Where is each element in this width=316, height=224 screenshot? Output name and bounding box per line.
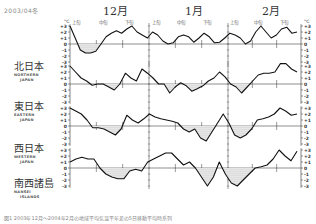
- figure-caption: 図1 2003年12月～2004年2月の地域平均気温平年差の5日移動平均時系列: [4, 214, 172, 221]
- svg-text:0: 0: [64, 166, 67, 171]
- temperature-anomaly-chart: -3-3-2-2-1-100+1+1+2+2+3+3°C°C-3-3-2-2-1…: [0, 0, 316, 224]
- svg-text:+1: +1: [60, 36, 67, 41]
- svg-text:0: 0: [304, 124, 307, 129]
- panel-3: -3-3-2-2-1-100+1+1+2+2+3+3: [60, 105, 311, 147]
- svg-text:-2: -2: [304, 54, 309, 59]
- svg-text:+3: +3: [304, 24, 311, 29]
- svg-text:-2: -2: [62, 94, 67, 99]
- svg-text:°C: °C: [64, 19, 69, 24]
- svg-text:0: 0: [64, 82, 67, 87]
- svg-text:+3: +3: [304, 148, 311, 153]
- svg-text:-2: -2: [304, 178, 309, 183]
- svg-text:+3: +3: [60, 148, 67, 153]
- svg-text:+1: +1: [304, 118, 311, 123]
- svg-text:0: 0: [64, 42, 67, 47]
- svg-text:+2: +2: [60, 70, 67, 75]
- svg-text:+3: +3: [304, 106, 311, 111]
- svg-text:+2: +2: [304, 112, 311, 117]
- svg-text:-1: -1: [62, 88, 67, 93]
- series-line: [70, 64, 297, 93]
- svg-text:-1: -1: [304, 130, 309, 135]
- series-line: [70, 108, 297, 141]
- svg-text:-1: -1: [62, 48, 67, 53]
- panel-1: -3-3-2-2-1-100+1+1+2+2+3+3°C°C: [60, 19, 311, 65]
- svg-text:-3: -3: [62, 184, 67, 189]
- svg-text:+1: +1: [60, 160, 67, 165]
- svg-text:-3: -3: [304, 142, 309, 147]
- svg-text:0: 0: [64, 124, 67, 129]
- series-line: [70, 26, 297, 53]
- svg-text:-1: -1: [304, 48, 309, 53]
- svg-text:+2: +2: [60, 30, 67, 35]
- svg-text:-2: -2: [62, 136, 67, 141]
- svg-text:°C: °C: [304, 19, 309, 24]
- svg-text:0: 0: [304, 166, 307, 171]
- svg-text:-1: -1: [62, 172, 67, 177]
- svg-text:-2: -2: [62, 178, 67, 183]
- svg-text:+3: +3: [60, 106, 67, 111]
- svg-text:-1: -1: [304, 88, 309, 93]
- svg-text:0: 0: [304, 42, 307, 47]
- svg-text:-2: -2: [304, 136, 309, 141]
- svg-text:-3: -3: [62, 142, 67, 147]
- svg-text:0: 0: [304, 82, 307, 87]
- svg-text:+1: +1: [304, 160, 311, 165]
- svg-text:+2: +2: [60, 112, 67, 117]
- panel-2: -3-3-2-2-1-100+1+1+2+2+3+3: [60, 63, 311, 105]
- panel-4: -3-3-2-2-1-100+1+1+2+2+3+3: [60, 147, 311, 189]
- svg-text:-1: -1: [62, 130, 67, 135]
- svg-text:+3: +3: [60, 64, 67, 69]
- svg-text:-2: -2: [62, 54, 67, 59]
- svg-text:-3: -3: [62, 100, 67, 105]
- svg-text:-3: -3: [304, 100, 309, 105]
- svg-text:+2: +2: [304, 30, 311, 35]
- svg-text:+2: +2: [304, 154, 311, 159]
- svg-text:+1: +1: [60, 118, 67, 123]
- svg-text:+2: +2: [304, 70, 311, 75]
- svg-text:+2: +2: [60, 154, 67, 159]
- svg-text:+1: +1: [304, 76, 311, 81]
- svg-text:-2: -2: [304, 94, 309, 99]
- svg-text:+1: +1: [60, 76, 67, 81]
- svg-text:+1: +1: [304, 36, 311, 41]
- svg-text:-3: -3: [304, 184, 309, 189]
- svg-text:-1: -1: [304, 172, 309, 177]
- svg-text:+3: +3: [304, 64, 311, 69]
- svg-text:+3: +3: [60, 24, 67, 29]
